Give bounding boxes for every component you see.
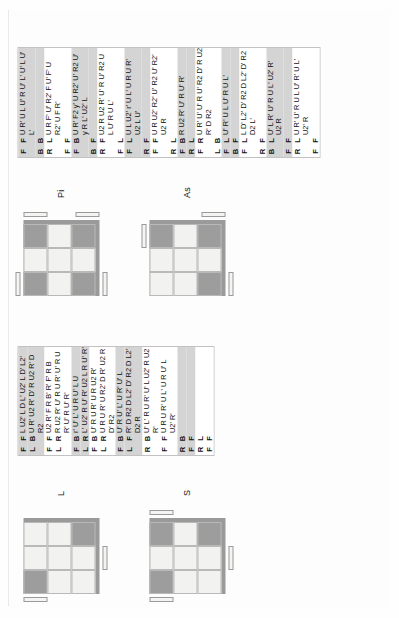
algorithm-cell: [310, 48, 319, 135]
edge-indicator: [201, 212, 225, 217]
document-stage: L S: [9, 10, 390, 608]
edge-indicator: [75, 212, 99, 217]
algorithm-line: U2 R: [274, 48, 283, 135]
algorithm-line: L U' R U L': [106, 48, 115, 135]
face-cell-a: F: [204, 444, 213, 455]
table-row: BLU' L R' U' R U L' U2' R'U2 R: [266, 48, 283, 157]
table-row: FF: [204, 347, 213, 455]
case-label-Pi: Pi: [55, 189, 65, 198]
cube-grid-As: [149, 220, 225, 296]
algorithm-cell: U2 R U2 R' U' R U' R2 UL U' R U L': [97, 48, 114, 135]
cube-cell: [173, 248, 197, 272]
cube-cell: [71, 224, 95, 248]
face-cell-a: F: [221, 146, 230, 157]
cube-cell: [71, 546, 95, 570]
table-row: FFU R U2' R2' U' R2 U' R2'U2 R: [150, 48, 167, 157]
face-cell-b: R: [195, 135, 212, 146]
table-row: FLU' R' U L U' R U L': [221, 48, 230, 157]
algorithm-line: U R' F2 y' U R2' U' R2 U': [71, 48, 80, 135]
face-cell-b: R: [80, 433, 89, 444]
page-sheet: L S: [0, 0, 399, 618]
table-row: RL: [195, 347, 204, 455]
cube-cell: [47, 522, 71, 546]
algorithm-cell: U R' F2 y' U R2' U' R2 U'y R L' U2' L: [71, 48, 88, 135]
face-cell-a: F: [115, 146, 124, 157]
algorithm-cell: U R' U' R U L U' R' U L'U2' R: [292, 48, 309, 135]
cube-cell: [71, 570, 95, 594]
algorithm-line: U2 R' F R B' R' F' R B: [44, 347, 53, 433]
cube-cell: [23, 546, 47, 570]
cube-cell: [47, 272, 71, 296]
algorithm-line: R' D R2: [204, 48, 213, 135]
face-cell-b: B: [212, 135, 221, 146]
table-row: RFU2 R U2 R' U' R U' R2 UL U' R U L': [97, 48, 114, 157]
cube-cell: [173, 570, 197, 594]
face-cell-a: F: [18, 146, 35, 157]
face-cell-a: R: [142, 444, 159, 455]
face-cell-a: R: [97, 146, 114, 157]
face-cell-b: B: [177, 433, 186, 444]
face-cell-b: B: [89, 433, 98, 444]
cube-cell: [149, 546, 173, 570]
face-cell-b: R: [53, 433, 70, 444]
face-cell-b: R: [98, 433, 115, 444]
face-cell-b: B: [71, 135, 88, 146]
face-cell-b: L: [124, 135, 141, 146]
face-cell-a: R: [141, 146, 150, 157]
face-cell-b: L: [221, 135, 230, 146]
face-cell-a: F: [310, 146, 319, 157]
face-cell-b: B: [115, 433, 124, 444]
face-cell-a: F: [186, 444, 195, 455]
face-cell-a: B: [230, 146, 239, 157]
algorithm-cell: U R F' U' R2' F U' F' UR2' U F R': [44, 48, 61, 135]
face-cell-a: R: [186, 146, 195, 157]
table-row: FBR U2 R' U' R U' R': [177, 48, 186, 157]
edge-indicator: [23, 597, 47, 602]
algorithm-line: U R' U2 R' D' R U2 R' D: [27, 347, 36, 433]
face-cell-b: F: [18, 135, 35, 146]
face-cell-a: R: [195, 444, 204, 455]
face-cell-b: F: [150, 135, 167, 146]
face-cell-b: F: [159, 433, 176, 444]
face-cell-b: F: [18, 433, 27, 444]
cube-cell: [149, 522, 173, 546]
face-cell-b: L: [195, 433, 204, 444]
cube-diagram-L: [23, 518, 99, 594]
face-cell-b: F: [44, 433, 53, 444]
algorithm-cell: U' L R' U' R U L' U2' R'U2 R: [266, 48, 283, 135]
face-cell-b: L: [168, 135, 177, 146]
face-cell-b: F: [283, 135, 292, 146]
face-cell-a: F: [124, 146, 141, 157]
edge-indicator: [102, 272, 107, 296]
face-cell-a: L: [80, 444, 89, 455]
algorithm-cell: U R' U' U' R U' R2 D' R U2R' D R2: [195, 48, 212, 135]
algorithm-cell: U R U R' U L' U R U' LU2' R': [159, 347, 176, 433]
face-cell-a: L: [124, 444, 141, 455]
algorithm-cell: R U2 R' U' R U R' U' R UR' U' R U' R': [53, 347, 70, 433]
cube-cell: [197, 522, 221, 546]
edge-indicator: [149, 510, 173, 515]
algorithm-cell: L D' L2' D' R2 D L2' D' R2D2 L': [239, 48, 256, 135]
face-cell-b: F: [124, 433, 141, 444]
algorithm-cell: U L U2' r' U L' U R U R'U2 L U': [124, 48, 141, 135]
face-cell-a: R: [177, 444, 186, 455]
cube-cell: [47, 224, 71, 248]
algorithm-line: U' R' U L U' R U L': [221, 48, 230, 135]
algorithm-cell: [204, 347, 213, 433]
algorithm-cell: R' D R2 D L2' D' R2 D L2'D2 R: [124, 347, 141, 433]
table-row: RBU' L' R U R' U' L U2' R U2R': [142, 347, 159, 455]
algorithm-cell: R U2 R' U' R U' R': [177, 48, 186, 135]
table-row: FFU R U R' U L' U R U' LU2' R': [159, 347, 176, 455]
face-cell-b: L: [266, 135, 283, 146]
face-cell-b: F: [257, 135, 266, 146]
algorithm-cell: [195, 347, 204, 433]
cube-cell: [23, 522, 47, 546]
table-row: FRU R' U' U' R U' R2 D' R U2R' D R2: [195, 48, 212, 157]
table-row: RL: [168, 48, 177, 157]
face-cell-a: R: [257, 146, 266, 157]
face-cell-b: F: [97, 135, 114, 146]
cube-cell: [197, 546, 221, 570]
face-cell-a: R: [44, 146, 61, 157]
table-row: LBU R' U2 R' D' R U2 R' DR2: [27, 347, 44, 455]
table-row: RF: [257, 48, 266, 157]
